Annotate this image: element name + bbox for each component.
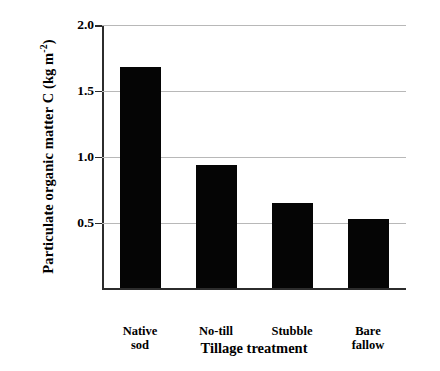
bar [348,219,389,289]
gridline [102,25,406,26]
plot-area: 0.51.01.52.0 NativesodNo-tillStubbleBare… [102,25,406,290]
y-axis-title-tail: ) [40,39,56,44]
x-axis-line [102,288,406,290]
x-axis-tick-label: Stubble [254,325,330,339]
y-axis-title-exponent: -2 [38,44,49,52]
y-axis-tick-mark [95,91,102,93]
bar [196,165,237,289]
bar [272,203,313,289]
y-axis-tick-label: 1.0 [34,149,94,165]
y-axis-tick-mark [95,223,102,225]
x-axis-tick-label-line1: Bare [355,324,380,338]
y-axis-tick-label: 0.5 [34,215,94,231]
x-axis-title: Tillage treatment [102,340,406,357]
x-axis-tick-label: No-till [178,325,254,339]
bar-chart: Particulate organic matter C (kg m-2) 0.… [0,0,440,371]
y-axis-tick-label: 1.5 [34,83,94,99]
x-axis-tick-label-line1: Native [123,324,158,338]
x-axis-tick-label-line1: No-till [199,324,233,338]
bar [120,67,161,288]
y-axis-tick-mark [95,25,102,27]
y-axis-tick-label: 2.0 [34,17,94,33]
x-axis-tick-label-line1: Stubble [272,324,313,338]
y-axis-tick-mark [95,157,102,159]
